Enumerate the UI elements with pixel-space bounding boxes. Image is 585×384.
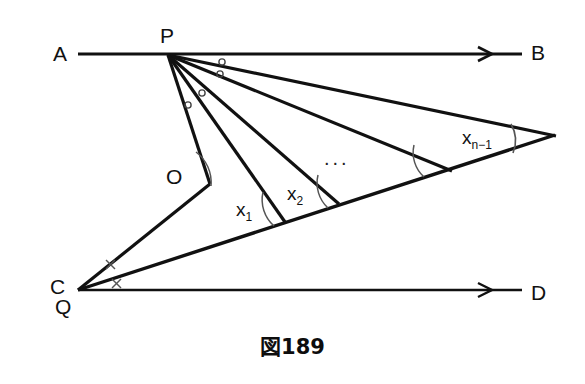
angle-label-xn: xn−1: [462, 128, 492, 151]
ellipsis-label: ...: [324, 148, 350, 168]
angle-arc-xmid: [413, 145, 424, 177]
angle-mark-cross-2: [112, 279, 121, 288]
angle-mark-circle-3: [199, 90, 205, 96]
angle-label-x1-base: x: [236, 199, 246, 220]
angle-label-x2: x2: [287, 184, 303, 207]
ray-p-r: [168, 55, 556, 136]
angle-label-x2-sub: 2: [297, 194, 304, 208]
point-label-a: A: [53, 43, 67, 64]
angle-label-xn-base: x: [462, 127, 472, 148]
point-label-q: Q: [55, 296, 71, 317]
point-label-d: D: [531, 282, 546, 303]
line-o-c: [78, 184, 210, 290]
point-label-c: C: [50, 276, 65, 297]
point-label-p: P: [160, 25, 174, 46]
ray-p-t3: [168, 55, 452, 171]
angle-label-o: O: [166, 166, 182, 187]
angle-label-x2-base: x: [287, 183, 297, 204]
angle-label-xn-sub: n−1: [472, 138, 492, 152]
angle-label-x1: x1: [236, 200, 252, 223]
point-label-b: B: [531, 42, 545, 63]
angle-label-x1-sub: 1: [246, 210, 253, 224]
figure-caption: 図189: [0, 330, 585, 360]
angle-mark-circle-1: [219, 59, 225, 65]
line-c-r: [78, 135, 555, 290]
